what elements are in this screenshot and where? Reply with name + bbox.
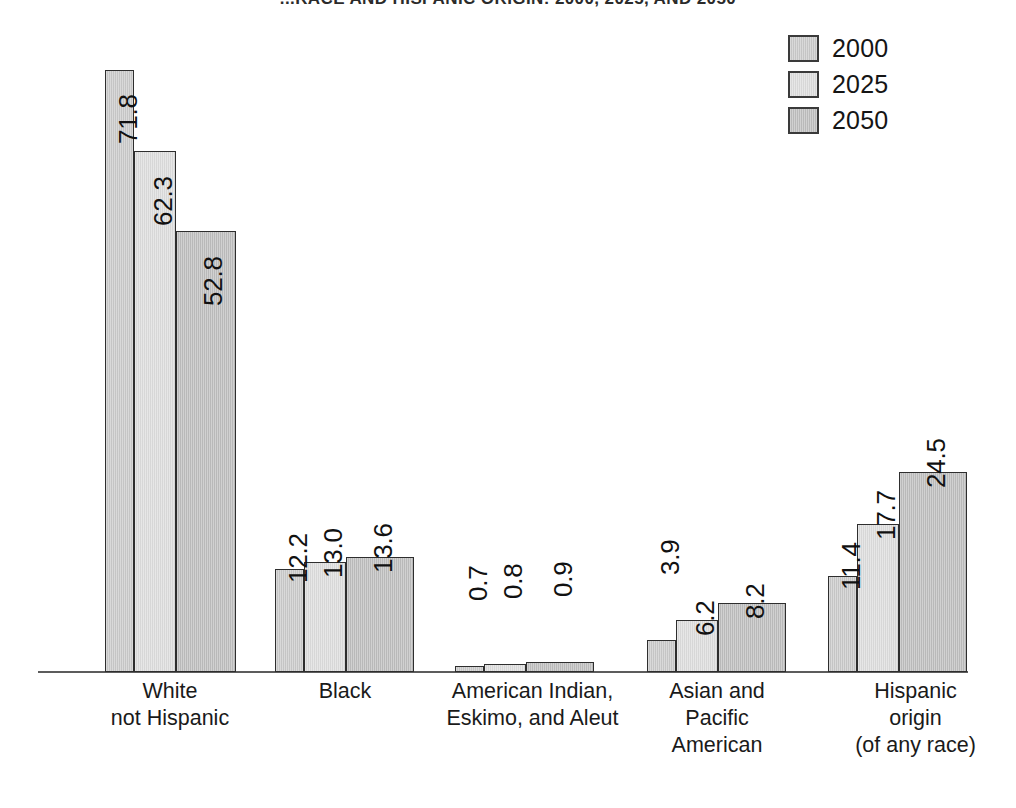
category-label-line: American [632, 732, 802, 759]
legend-label-2000: 2000 [832, 34, 888, 63]
bar-hispanic-2050[interactable] [899, 472, 967, 672]
bar-white-2000[interactable] [105, 70, 134, 672]
bar-value-label: 6.2 [690, 600, 721, 636]
legend-label-2025: 2025 [832, 70, 888, 99]
legend-swatch-2025 [788, 71, 819, 98]
bar-black-2000[interactable] [275, 569, 304, 672]
category-label-line: White [70, 678, 270, 705]
bar-hispanic-2000[interactable] [828, 576, 857, 672]
bar-amerindian-2000[interactable] [455, 666, 484, 672]
bar-value-label: 0.7 [463, 565, 494, 601]
category-label-white: White not Hispanic [70, 678, 270, 732]
bar-asian-2000[interactable] [647, 640, 676, 672]
bar-value-label: 3.9 [655, 539, 686, 575]
category-label-line: origin [818, 705, 1013, 732]
legend-item-2050[interactable]: 2050 [788, 102, 978, 138]
bar-value-label: 71.8 [113, 94, 144, 144]
bar-value-label: 52.8 [198, 256, 229, 306]
category-label-american-indian: American Indian, Eskimo, and Aleut [415, 678, 650, 732]
category-label-asian-pacific: Asian and Pacific American [632, 678, 802, 759]
category-label-line: Asian and [632, 678, 802, 705]
bar-value-label: 24.5 [921, 438, 952, 488]
bar-black-2050[interactable] [346, 557, 414, 672]
category-label-line: Hispanic [818, 678, 1013, 705]
legend-item-2000[interactable]: 2000 [788, 30, 978, 66]
category-label-black: Black [255, 678, 435, 705]
legend-item-2025[interactable]: 2025 [788, 66, 978, 102]
category-label-hispanic: Hispanic origin (of any race) [818, 678, 1013, 759]
category-label-line: not Hispanic [70, 705, 270, 732]
bar-amerindian-2025[interactable] [484, 664, 526, 672]
bar-value-label: 12.2 [283, 533, 314, 583]
bar-white-2025[interactable] [134, 151, 176, 672]
category-label-line: (of any race) [818, 732, 1013, 759]
bar-value-label: 0.9 [548, 561, 579, 597]
category-label-line: Pacific [632, 705, 802, 732]
legend-swatch-2000 [788, 35, 819, 62]
bar-amerindian-2050[interactable] [526, 662, 594, 672]
legend-swatch-2050 [788, 107, 819, 134]
bar-value-label: 17.7 [871, 490, 902, 540]
bar-value-label: 13.0 [318, 528, 349, 578]
legend: 2000 2025 2050 [788, 30, 978, 138]
category-label-line: Black [255, 678, 435, 705]
legend-label-2050: 2050 [832, 106, 888, 135]
category-label-line: Eskimo, and Aleut [415, 705, 650, 732]
category-label-line: American Indian, [415, 678, 650, 705]
bar-value-label: 13.6 [368, 523, 399, 573]
bar-value-label: 11.4 [836, 542, 867, 590]
bar-value-label: 8.2 [740, 583, 771, 619]
bar-value-label: 0.8 [498, 563, 529, 599]
bar-value-label: 62.3 [148, 176, 179, 226]
